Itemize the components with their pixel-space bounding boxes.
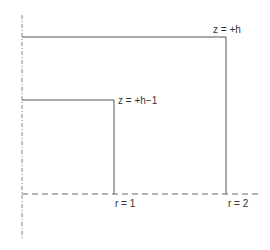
outer-boundary bbox=[22, 37, 226, 194]
label-r1: r = 1 bbox=[115, 198, 136, 209]
inner-boundary bbox=[22, 100, 114, 194]
label-outer-top: z = +h bbox=[213, 24, 241, 35]
label-inner-top: z = +h−1 bbox=[118, 95, 158, 106]
cylinder-cross-section-diagram: z = +h z = +h−1 r = 1 r = 2 bbox=[0, 0, 270, 250]
label-r2: r = 2 bbox=[228, 198, 249, 209]
